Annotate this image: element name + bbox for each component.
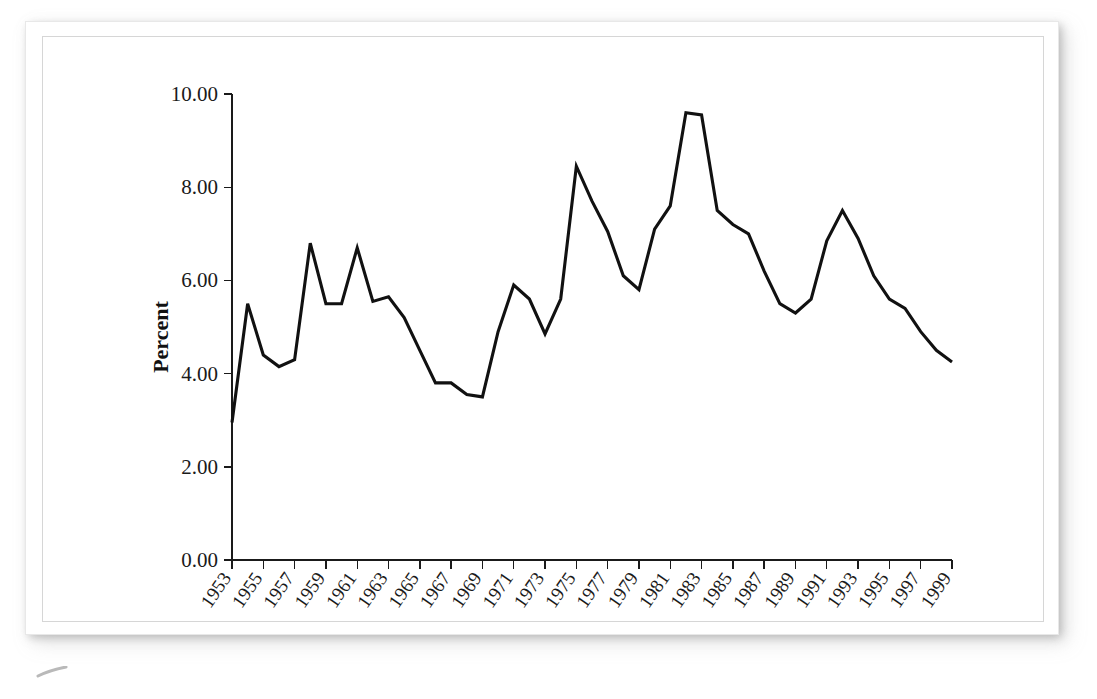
x-axis-tick-label: 1983	[666, 568, 705, 611]
y-axis: 0.002.004.006.008.0010.00	[171, 82, 232, 572]
x-axis-tick-label: 1975	[541, 568, 580, 611]
x-axis-tick-label: 1993	[822, 568, 861, 611]
x-axis-tick-label: 1991	[791, 568, 830, 611]
y-axis-tick-label: 6.00	[181, 268, 218, 292]
x-axis-tick-label: 1963	[353, 568, 392, 611]
y-axis-tick-label: 0.00	[181, 548, 218, 572]
x-axis-tick-label: 1959	[290, 568, 329, 611]
y-axis-tick-label: 10.00	[171, 82, 218, 106]
x-axis-tick-label: 1967	[415, 568, 454, 611]
x-axis-tick-label: 1989	[760, 568, 799, 611]
y-axis-title: Percent	[148, 301, 173, 373]
x-axis-tick-label: 1981	[635, 568, 674, 611]
figure-page: 0.002.004.006.008.0010.00 19531955195719…	[0, 0, 1097, 699]
x-axis-tick-label: 1985	[697, 568, 736, 611]
x-axis-tick-label: 1977	[572, 568, 611, 611]
line-chart: 0.002.004.006.008.0010.00 19531955195719…	[0, 0, 1097, 699]
x-axis-tick-label: 1969	[447, 568, 486, 611]
x-axis-tick-label: 1979	[603, 568, 642, 611]
chart-canvas: 0.002.004.006.008.0010.00 19531955195719…	[0, 0, 1097, 699]
x-axis-tick-label: 1987	[728, 568, 767, 611]
x-axis-tick-label: 1971	[478, 568, 517, 611]
y-axis-title-label: Percent	[148, 301, 173, 373]
x-axis-tick-label: 1957	[259, 568, 298, 611]
x-axis-tick-label: 1961	[321, 568, 360, 611]
x-axis-tick-label: 1995	[854, 568, 893, 611]
x-axis-tick-label: 1973	[509, 568, 548, 611]
x-axis-tick-label: 1997	[885, 568, 924, 611]
data-series-group	[232, 113, 952, 423]
y-axis-tick-label: 4.00	[181, 362, 218, 386]
x-axis-tick-label: 1955	[228, 568, 267, 611]
x-axis-tick-label: 1965	[384, 568, 423, 611]
x-axis-tick-label: 1999	[916, 568, 955, 611]
x-axis-tick-label: 1953	[196, 568, 235, 611]
y-axis-tick-label: 2.00	[181, 455, 218, 479]
x-axis: 1953195519571959196119631965196719691971…	[196, 560, 955, 611]
y-axis-tick-label: 8.00	[181, 175, 218, 199]
data-series-line	[232, 113, 952, 423]
